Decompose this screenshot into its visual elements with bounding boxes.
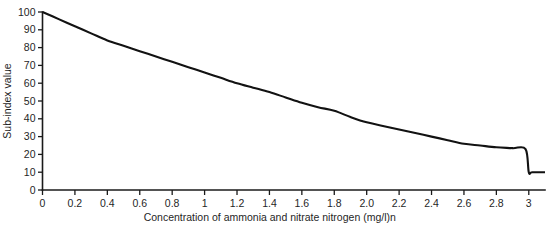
data-curve	[43, 12, 546, 174]
x-tick-label: 0.4	[100, 197, 115, 209]
x-tick-label: 1	[202, 197, 208, 209]
x-tick-label: 2.8	[489, 197, 504, 209]
x-tick-label: 0	[40, 197, 46, 209]
x-tick-label: 2.4	[424, 197, 439, 209]
data-series-layer	[43, 12, 546, 174]
x-tick-label: 0.6	[132, 197, 147, 209]
x-tick-label: 1.8	[327, 197, 342, 209]
x-tick-label: 0.2	[68, 197, 83, 209]
y-tick-label: 100	[18, 6, 36, 18]
x-tick-label: 2.2	[392, 197, 407, 209]
y-tick-label: 50	[24, 95, 36, 107]
x-axis-tick-labels: 00.20.40.60.811.21.41.61.82.02.22.42.62.…	[40, 197, 532, 209]
x-tick-label: 1.2	[230, 197, 245, 209]
x-tick-label: 1.6	[295, 197, 310, 209]
y-tick-label: 10	[24, 166, 36, 178]
y-tick-label: 60	[24, 77, 36, 89]
y-axis-title: Sub-index value	[1, 63, 13, 138]
x-tick-label: 2.0	[359, 197, 374, 209]
x-tick-label: 2.6	[457, 197, 472, 209]
y-tick-label: 70	[24, 59, 36, 71]
line-chart: 0102030405060708090100 00.20.40.60.811.2…	[0, 0, 554, 236]
y-tick-label: 0	[30, 184, 36, 196]
x-tick-label: 1.4	[262, 197, 277, 209]
y-tick-label: 30	[24, 130, 36, 142]
y-tick-label: 40	[24, 112, 36, 124]
y-tick-label: 90	[24, 23, 36, 35]
y-axis-tick-labels: 0102030405060708090100	[18, 6, 36, 196]
chart-figure: 0102030405060708090100 00.20.40.60.811.2…	[0, 0, 554, 236]
y-tick-label: 20	[24, 148, 36, 160]
x-tick-label: 0.8	[165, 197, 180, 209]
x-tick-label: 3	[526, 197, 532, 209]
y-tick-label: 80	[24, 41, 36, 53]
x-axis-title: Concentration of ammonia and nitrate nit…	[144, 211, 396, 223]
